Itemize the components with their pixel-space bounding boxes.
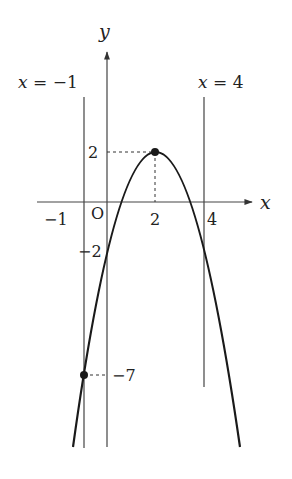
line-label-x-minus-1: x = −1 xyxy=(18,72,78,92)
y-tick-2: 2 xyxy=(88,143,98,162)
y-tick-minus-2: −2 xyxy=(78,242,102,261)
y-tick-minus-7: −7 xyxy=(112,366,136,385)
x-tick-4: 4 xyxy=(207,210,217,229)
origin-label: O xyxy=(91,204,104,223)
point-minus-1-minus-7 xyxy=(80,371,88,379)
x-axis-label: x xyxy=(260,191,271,213)
x-tick-minus-1: −1 xyxy=(44,210,68,229)
vertex-point xyxy=(151,148,159,156)
parabola-curve xyxy=(73,152,240,447)
y-axis-label: y xyxy=(98,20,110,42)
line-label-x-4: x = 4 xyxy=(198,72,243,92)
graph-canvas: y x O x = −1 x = 4 −1 2 4 2 −2 −7 xyxy=(0,0,292,479)
x-tick-2: 2 xyxy=(150,210,160,229)
